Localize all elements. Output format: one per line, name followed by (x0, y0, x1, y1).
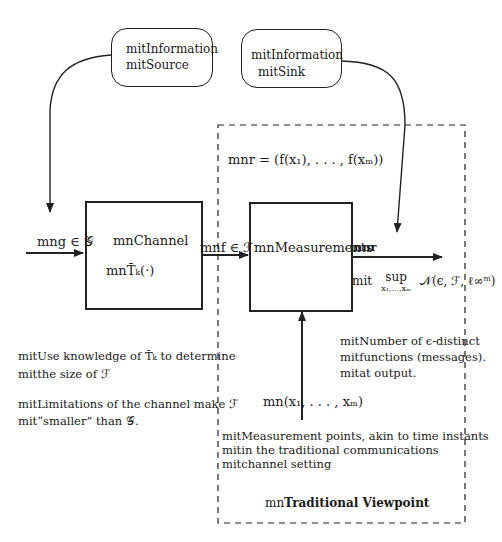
note-line: mitin the traditional communications (222, 443, 489, 457)
limitations-note: mitLimitations of the channel make ℱ mit… (18, 396, 238, 430)
sup-prefix: mit (352, 274, 372, 288)
channel-operator: mnT̄ₖ(·) (106, 263, 154, 278)
sup-expr: 𝒩(ϵ, ℱ, ℓ∞ᵐ) (420, 274, 495, 288)
sink-line1: mitInformation (251, 48, 343, 62)
label-prefix: mn (265, 496, 284, 510)
note-line: mitat output. (340, 365, 486, 381)
information-sink-node: mitInformation mitSink (241, 29, 342, 88)
measurements-block (249, 202, 353, 312)
note-line: mitchannel setting (222, 457, 489, 471)
label-text: Traditional Viewpoint (284, 496, 429, 510)
note-line: mitMeasurement points, akin to time inst… (222, 429, 489, 443)
r-definition: mnr = (f(x₁), . . . , f(xₘ)) (228, 152, 383, 167)
use-knowledge-note: mitUse knowledge of T̄ₖ to determine mit… (18, 347, 236, 383)
source-line1: mitInformation (126, 42, 218, 56)
sup-operator: sup (381, 270, 411, 284)
channel-output-label: mnf ∈ ℱ (200, 240, 253, 255)
note-line: mitLimitations of the channel make ℱ (18, 396, 238, 413)
note-line: mitthe size of ℱ (18, 365, 236, 383)
note-line: mitNumber of ϵ-distinct (340, 333, 486, 349)
sink-line2: mitSink (258, 65, 305, 79)
information-source-node: mitInformation mitSource (111, 28, 213, 87)
note-line: mit“smaller” than 𝒢. (18, 413, 238, 430)
channel-title: mnChannel (113, 233, 188, 248)
source-line2: mitSource (126, 58, 189, 72)
sup-expression: mit sup x₁,...,xₘ 𝒩(ϵ, ℱ, ℓ∞ᵐ) (352, 270, 496, 293)
measurement-output-label: mnr (350, 240, 377, 254)
source-curve (50, 55, 111, 212)
measurement-points-note: mitMeasurement points, akin to time inst… (222, 429, 489, 471)
traditional-viewpoint-label: mnTraditional Viewpoint (265, 496, 429, 510)
channel-block (85, 201, 203, 310)
sup-subscript: x₁,...,xₘ (381, 284, 411, 293)
measurement-points-label: mn(x₁, . . . , xₘ) (263, 394, 363, 409)
epsilon-distinct-note: mitNumber of ϵ-distinct mitfunctions (me… (340, 333, 486, 381)
note-line: mitUse knowledge of T̄ₖ to determine (18, 347, 236, 365)
input-label: mng ∈ 𝒢 (37, 234, 93, 250)
note-line: mitfunctions (messages). (340, 349, 486, 365)
